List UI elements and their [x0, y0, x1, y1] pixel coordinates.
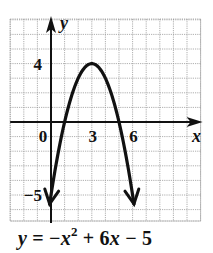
equation-label: y = −x2 + 6x − 5: [0, 225, 213, 250]
equation-x-linear: x: [110, 227, 120, 249]
x-tick-label: 6: [129, 127, 138, 146]
coordinate-plane: 0364−5xy: [0, 0, 213, 253]
y-tick-label: −5: [24, 186, 42, 205]
equation-middle: + 6: [78, 227, 110, 249]
x-tick-label: 3: [89, 127, 98, 146]
equation-x-term: x: [61, 227, 71, 249]
equation-equals: = −: [27, 227, 61, 249]
parabola-graph: 0364−5xy y = −x2 + 6x − 5: [0, 0, 213, 253]
equation-lhs: y: [18, 227, 27, 249]
y-axis-label: y: [58, 13, 69, 33]
x-tick-label: 0: [39, 127, 48, 146]
equation-constant: − 5: [120, 227, 152, 249]
y-tick-label: 4: [34, 55, 43, 74]
x-axis-label: x: [191, 126, 201, 146]
equation-exponent: 2: [71, 224, 78, 239]
